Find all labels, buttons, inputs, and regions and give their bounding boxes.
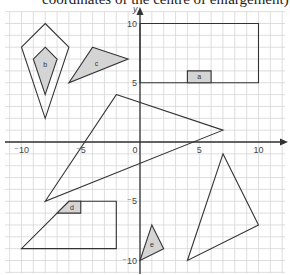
shape-label-e: e: [150, 241, 154, 248]
y-tick-label: ⁻5: [127, 196, 137, 206]
coordinate-grid: abcde ⁻10⁻50510105⁻5⁻10y: [0, 0, 290, 275]
y-axis-label: y: [132, 4, 138, 14]
shape-trapezium-d: [57, 201, 81, 213]
x-tick-label: 5: [197, 145, 202, 155]
y-tick-label: 10: [127, 19, 137, 29]
x-tick-label: 10: [253, 145, 263, 155]
shape-label-b: b: [43, 61, 47, 68]
y-axis-arrow-icon: [137, 7, 144, 15]
x-tick-label: ⁻10: [14, 145, 29, 155]
x-tick-label: 0: [132, 145, 137, 155]
axis-labels: ⁻10⁻50510105⁻5⁻10y: [14, 4, 264, 266]
shape-label-a: a: [197, 73, 201, 80]
x-tick-label: ⁻5: [76, 145, 86, 155]
y-tick-label: 5: [132, 78, 137, 88]
x-axis-arrow-icon: [280, 139, 288, 146]
shape-triangle-c: [69, 47, 128, 83]
shape-label-c: c: [95, 60, 99, 67]
shape-kite-b: [33, 47, 57, 94]
y-tick-label: ⁻10: [122, 256, 137, 266]
shape-label-d: d: [70, 204, 74, 211]
